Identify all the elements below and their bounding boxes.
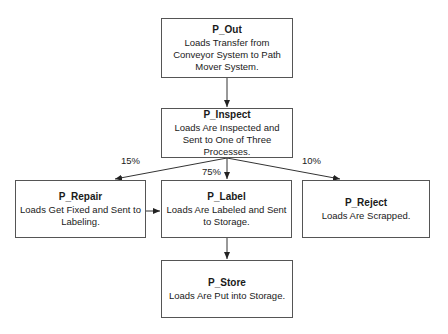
node-p-out: P_Out Loads Transfer from Conveyor Syste… [161, 18, 293, 78]
node-title: P_Store [208, 277, 246, 289]
node-desc: Loads Are Put into Storage. [169, 290, 285, 302]
node-p-inspect: P_Inspect Loads Are Inspected and Sent t… [161, 108, 293, 158]
edge-inspect-reject [227, 158, 340, 179]
node-desc: Loads Get Fixed and Sent to Labeling. [19, 204, 142, 228]
edge-label-15: 15% [121, 155, 140, 166]
edge-label-10: 10% [302, 155, 321, 166]
node-desc: Loads Are Scrapped. [322, 210, 411, 222]
node-title: P_Out [212, 24, 241, 36]
node-p-store: P_Store Loads Are Put into Storage. [161, 260, 293, 318]
node-title: P_Inspect [203, 109, 250, 121]
node-desc: Loads Are Labeled and Sent to Storage. [165, 204, 288, 228]
node-p-label: P_Label Loads Are Labeled and Sent to St… [161, 180, 292, 238]
node-desc: Loads Are Inspected and Sent to One of T… [165, 122, 289, 158]
node-title: P_Repair [59, 191, 102, 203]
node-p-repair: P_Repair Loads Get Fixed and Sent to Lab… [15, 180, 146, 238]
node-title: P_Label [207, 191, 245, 203]
node-title: P_Reject [345, 197, 387, 209]
node-desc: Loads Transfer from Conveyor System to P… [165, 37, 289, 73]
edge-label-75: 75% [202, 166, 221, 177]
node-p-reject: P_Reject Loads Are Scrapped. [302, 180, 430, 238]
